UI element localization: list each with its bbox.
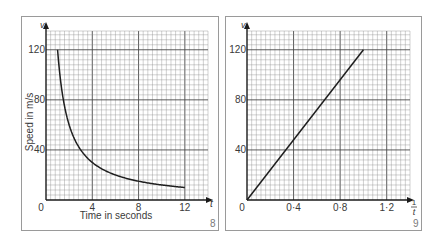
x-tick-label: 1·2 — [379, 202, 394, 213]
x-axis-symbol: t — [210, 198, 214, 209]
x-axis-label: Time in seconds — [80, 210, 152, 221]
x-tick-label: 0·4 — [286, 202, 301, 213]
x-tick-label: 12 — [179, 202, 191, 213]
figure-pair: 048124080120 v t Time in seconds Speed i… — [0, 0, 444, 246]
y-axis-symbol: v — [241, 20, 246, 30]
y-tick-label: 120 — [229, 44, 246, 55]
series-line — [58, 50, 185, 188]
y-tick-label: 80 — [34, 94, 46, 105]
data-curve — [58, 50, 185, 188]
y-tick-label: 80 — [235, 94, 247, 105]
grid — [46, 31, 208, 200]
y-tick-label: 120 — [28, 44, 45, 55]
chart-frame — [226, 17, 422, 231]
chart-speed-vs-time: 048124080120 v t Time in seconds Speed i… — [22, 17, 219, 231]
y-axis-symbol: v — [40, 20, 45, 30]
axes — [43, 22, 213, 203]
x-axis-symbol-denominator: t — [413, 207, 416, 217]
figure-number: 9 — [413, 218, 419, 229]
x-tick-label: 0·8 — [333, 202, 348, 213]
axes — [244, 22, 414, 203]
x-tick-label: 0 — [239, 202, 245, 213]
tick-labels: 00·40·81·24080120 — [229, 44, 394, 213]
y-tick-label: 40 — [235, 144, 247, 155]
x-axis-symbol-numerator: 1 — [412, 198, 417, 207]
y-axis-label: Speed in m/s — [24, 93, 35, 151]
y-tick-label: 40 — [34, 144, 46, 155]
chart-speed-vs-reciprocal-time: 00·40·81·24080120 v 1 t 9 — [226, 17, 422, 231]
figure-number: 8 — [210, 218, 216, 229]
x-tick-label: 0 — [38, 202, 44, 213]
grid — [247, 31, 410, 200]
